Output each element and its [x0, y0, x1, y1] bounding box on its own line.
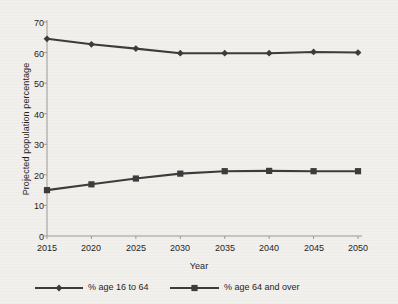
plot-area [0, 0, 398, 304]
data-point-marker [266, 50, 273, 57]
data-series-layer [44, 35, 362, 193]
data-point-marker [310, 168, 316, 174]
legend-item-label-1: % age 64 and over [224, 282, 300, 292]
data-point-marker [44, 35, 51, 42]
data-point-marker [133, 175, 139, 181]
legend-item-0 [35, 285, 83, 292]
data-point-marker [355, 168, 361, 174]
data-point-marker [88, 41, 95, 48]
data-point-marker [310, 49, 317, 56]
data-point-marker [355, 49, 362, 56]
data-point-marker [177, 171, 183, 177]
legend-item-1 [170, 285, 219, 291]
data-point-marker [221, 50, 228, 57]
legend-item-label-0: % age 16 to 64 [88, 282, 149, 292]
data-point-marker [191, 285, 197, 291]
line-chart: Projected population percentage Year 0 1… [0, 0, 398, 304]
data-point-marker [177, 50, 184, 57]
data-series-1 [44, 168, 361, 193]
data-point-marker [56, 285, 63, 292]
data-point-marker [132, 45, 139, 52]
data-point-marker [44, 187, 50, 193]
data-point-marker [266, 168, 272, 174]
data-point-marker [88, 181, 94, 187]
data-series-0 [44, 35, 362, 56]
data-point-marker [222, 168, 228, 174]
